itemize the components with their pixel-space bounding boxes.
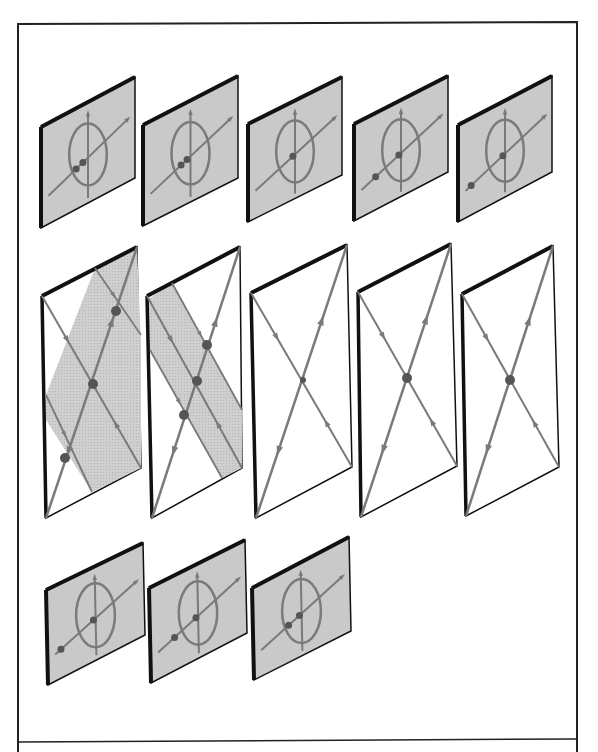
plane-panel-bottom-1 — [46, 543, 145, 685]
fixed-point-1 — [184, 156, 191, 163]
fixed-point-0 — [372, 173, 379, 180]
fixed-point-0 — [300, 377, 306, 383]
plane-left-edge — [252, 588, 254, 680]
saddle-panel-middle-2 — [147, 247, 242, 518]
plane-left-edge — [149, 588, 151, 683]
plane-panel-bottom-3 — [252, 537, 351, 680]
plane-panel-top-3 — [248, 77, 342, 222]
saddle-panel-middle-1 — [42, 247, 141, 518]
fixed-point-0 — [178, 162, 185, 169]
fixed-point-0 — [57, 646, 64, 653]
plane-panel-top-1 — [41, 77, 135, 228]
fixed-point-0 — [171, 634, 178, 641]
tall-panels — [42, 244, 559, 518]
saddle-panel-middle-4 — [358, 244, 457, 517]
fixed-point-2 — [179, 410, 189, 420]
fixed-point-1 — [79, 159, 86, 166]
fixed-point-0 — [202, 340, 212, 350]
plane-panel-top-2 — [143, 76, 238, 226]
saddle-panel-middle-3 — [251, 245, 352, 518]
fixed-point-0 — [289, 153, 296, 160]
fixed-point-1 — [499, 152, 506, 159]
fixed-point-1 — [395, 152, 402, 159]
frame-divider — [18, 739, 577, 742]
fixed-point-1 — [296, 612, 303, 619]
fixed-point-1 — [90, 617, 97, 624]
plane-panel-top-4 — [354, 76, 448, 221]
plane-left-edge — [46, 590, 48, 685]
fixed-point-0 — [73, 166, 80, 173]
plane-panel-top-5 — [458, 76, 552, 222]
saddle-panel-middle-5 — [462, 246, 559, 516]
fixed-point-0 — [402, 373, 412, 383]
fixed-point-1 — [192, 376, 202, 386]
fixed-point-0 — [285, 622, 292, 629]
phase-portrait-diagram — [0, 0, 598, 752]
fixed-point-0 — [468, 182, 475, 189]
fixed-point-2 — [60, 453, 70, 463]
fixed-point-0 — [505, 375, 515, 385]
plane-panel-bottom-2 — [149, 540, 247, 683]
fixed-point-0 — [111, 306, 121, 316]
fixed-point-1 — [192, 614, 199, 621]
fixed-point-1 — [88, 379, 98, 389]
